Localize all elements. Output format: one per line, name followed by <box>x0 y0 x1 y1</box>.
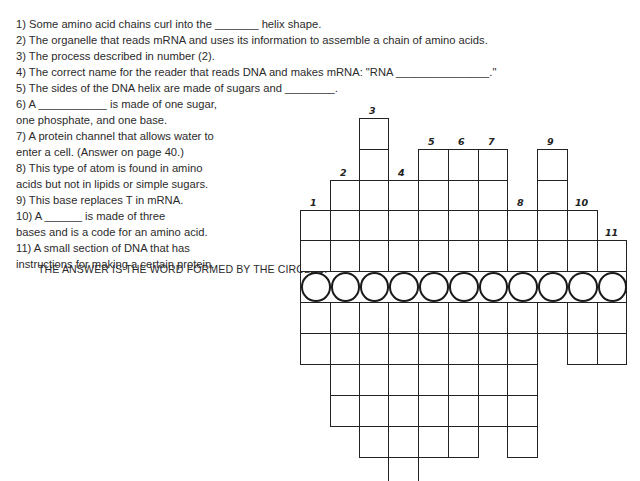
grid-cell[interactable] <box>567 333 598 365</box>
grid-cell[interactable] <box>418 395 449 427</box>
clue-line: 3) The process described in number (2). <box>16 48 215 64</box>
answer-circle[interactable] <box>389 272 420 302</box>
answer-circle[interactable] <box>598 272 628 302</box>
grid-cell[interactable] <box>597 333 627 365</box>
grid-cell[interactable] <box>478 180 508 211</box>
grid-cell[interactable] <box>388 210 419 241</box>
grid-cell[interactable] <box>567 210 598 241</box>
answer-circle[interactable] <box>419 272 450 302</box>
grid-cell[interactable] <box>448 210 479 241</box>
grid-cell[interactable] <box>507 210 538 241</box>
grid-cell[interactable] <box>448 395 479 427</box>
grid-cell[interactable] <box>507 395 538 427</box>
answer-circle[interactable] <box>331 272 361 302</box>
grid-cell[interactable] <box>359 180 389 211</box>
grid-cell[interactable] <box>388 302 419 334</box>
grid-cell[interactable] <box>478 302 508 334</box>
grid-cell[interactable] <box>448 149 479 181</box>
grid-cell[interactable] <box>330 395 360 427</box>
grid-cell[interactable] <box>478 240 508 272</box>
grid-cell[interactable] <box>448 240 479 272</box>
grid-cell[interactable] <box>537 240 568 272</box>
grid-cell[interactable] <box>478 333 508 365</box>
grid-cell[interactable] <box>567 240 598 272</box>
grid-cell[interactable] <box>388 180 419 211</box>
grid-cell[interactable] <box>537 302 568 334</box>
grid-cell[interactable] <box>418 333 449 365</box>
grid-cell[interactable] <box>388 364 419 396</box>
grid-cell[interactable] <box>359 149 389 181</box>
grid-cell[interactable] <box>388 426 419 458</box>
clue-line: enter a cell. (Answer on page 40.) <box>16 144 184 160</box>
grid-cell[interactable] <box>507 364 538 396</box>
grid-cell[interactable] <box>418 426 449 458</box>
clue-number: 9 <box>547 136 554 147</box>
grid-cell[interactable] <box>597 302 627 334</box>
grid-cell[interactable] <box>330 364 360 396</box>
grid-line <box>418 457 419 481</box>
answer-circle[interactable] <box>568 272 599 302</box>
grid-cell[interactable] <box>330 302 360 334</box>
grid-cell[interactable] <box>537 149 568 181</box>
grid-cell[interactable] <box>330 240 360 272</box>
grid-cell[interactable] <box>478 395 508 427</box>
clue-number: 11 <box>605 227 618 238</box>
grid-cell[interactable] <box>300 302 331 334</box>
grid-cell[interactable] <box>448 180 479 211</box>
grid-cell[interactable] <box>359 302 389 334</box>
grid-cell[interactable] <box>597 240 627 272</box>
clue-line: 1) Some amino acid chains curl into the … <box>16 16 321 32</box>
answer-circle[interactable] <box>449 272 480 302</box>
grid-cell[interactable] <box>300 210 331 241</box>
grid-cell[interactable] <box>418 302 449 334</box>
grid-cell[interactable] <box>418 149 449 181</box>
clue-number: 6 <box>458 136 465 147</box>
grid-cell[interactable] <box>330 180 360 211</box>
grid-cell[interactable] <box>507 302 538 334</box>
clue-number: 8 <box>517 197 524 208</box>
grid-cell[interactable] <box>567 302 598 334</box>
grid-cell[interactable] <box>448 364 479 396</box>
grid-cell[interactable] <box>507 426 538 458</box>
grid-cell[interactable] <box>359 395 389 427</box>
grid-cell[interactable] <box>448 333 479 365</box>
answer-circle[interactable] <box>538 272 569 302</box>
grid-cell[interactable] <box>359 364 389 396</box>
grid-cell[interactable] <box>388 240 419 272</box>
grid-cell[interactable] <box>507 240 538 272</box>
grid-cell[interactable] <box>359 333 389 365</box>
clue-number: 5 <box>428 136 435 147</box>
grid-cell[interactable] <box>537 210 568 241</box>
grid-cell[interactable] <box>330 210 360 241</box>
answer-circle[interactable] <box>508 272 539 302</box>
clue-number: 7 <box>488 136 495 147</box>
grid-cell[interactable] <box>478 364 508 396</box>
clue-number: 1 <box>310 197 317 208</box>
grid-cell[interactable] <box>300 240 331 272</box>
grid-cell[interactable] <box>448 426 479 458</box>
grid-cell[interactable] <box>478 210 508 241</box>
grid-cell[interactable] <box>359 210 389 241</box>
grid-cell[interactable] <box>418 240 449 272</box>
grid-cell[interactable] <box>388 395 419 427</box>
answer-circle[interactable] <box>360 272 390 302</box>
grid-cell[interactable] <box>507 333 538 365</box>
grid-cell[interactable] <box>330 333 360 365</box>
answer-circle[interactable] <box>479 272 509 302</box>
grid-cell[interactable] <box>448 302 479 334</box>
clue-line: 8) This type of atom is found in amino <box>16 160 202 176</box>
grid-cell[interactable] <box>359 118 389 150</box>
clue-line: one phosphate, and one base. <box>16 112 167 128</box>
grid-cell[interactable] <box>388 333 419 365</box>
grid-cell[interactable] <box>300 333 331 365</box>
clue-number: 10 <box>575 197 588 208</box>
answer-circle[interactable] <box>301 272 332 302</box>
grid-cell[interactable] <box>359 240 389 272</box>
grid-cell[interactable] <box>418 210 449 241</box>
clue-line: 11) A small section of DNA that has <box>16 240 190 256</box>
grid-cell[interactable] <box>359 426 389 458</box>
grid-cell[interactable] <box>418 364 449 396</box>
grid-cell[interactable] <box>478 149 508 181</box>
grid-cell[interactable] <box>418 180 449 211</box>
grid-cell[interactable] <box>537 180 568 211</box>
